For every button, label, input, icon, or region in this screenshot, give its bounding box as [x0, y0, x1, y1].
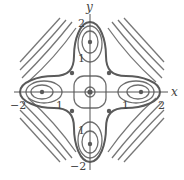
lobe-center-right	[139, 90, 143, 94]
phase-portrait: y x −2 1 1 2 2 1 1 −2	[0, 0, 184, 180]
saddle-point	[107, 71, 111, 75]
tick-y-minus-2: −2	[70, 160, 86, 173]
x-axis-label: x	[171, 85, 178, 99]
saddle-point	[107, 109, 111, 113]
tick-y-minus-1: 1	[78, 124, 85, 137]
lobe-center-bottom	[88, 142, 92, 146]
lobe-center-top	[88, 40, 92, 44]
saddle-point	[70, 71, 74, 75]
center-point	[87, 89, 92, 94]
tick-x-minus-1: 1	[56, 99, 63, 112]
tick-y-1: 1	[78, 52, 85, 65]
tick-x-2: 2	[158, 99, 165, 112]
lobe-center-left	[40, 90, 44, 94]
saddle-point	[70, 109, 74, 113]
tick-y-2: 2	[78, 17, 85, 30]
tick-x-minus-2: −2	[10, 99, 26, 112]
tick-x-1: 1	[122, 99, 129, 112]
y-axis-label: y	[85, 0, 93, 14]
